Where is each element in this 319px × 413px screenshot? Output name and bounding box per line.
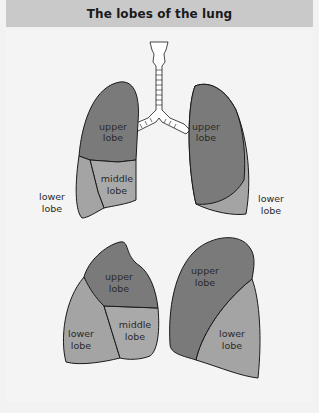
label-front-right-middle-1: middle xyxy=(101,173,134,184)
label-front-right-middle-2: lobe xyxy=(107,185,127,196)
label-side-right-lower-2: lobe xyxy=(71,340,91,351)
label-side-right-middle-2: lobe xyxy=(125,331,145,342)
label-front-left-upper-1: upper xyxy=(192,121,220,132)
side-left-lung xyxy=(170,238,260,378)
label-side-right-upper-2: lobe xyxy=(109,283,129,294)
label-front-right-upper-1: upper xyxy=(99,121,127,132)
lung-lobes-diagram: The lobes of the lung xyxy=(0,0,319,413)
front-left-upper-lobe xyxy=(189,84,245,204)
label-front-left-upper-2: lobe xyxy=(196,132,216,143)
label-side-left-upper-2: lobe xyxy=(195,277,215,288)
front-left-lung xyxy=(189,84,249,214)
label-side-right-upper-1: upper xyxy=(105,271,133,282)
label-side-left-lower-2: lobe xyxy=(222,340,242,351)
label-front-right-upper-2: lobe xyxy=(103,132,123,143)
label-side-left-lower-1: lower xyxy=(219,328,245,339)
lung-illustration: upper lobe middle lobe lower lobe upper … xyxy=(0,0,319,413)
label-side-right-middle-1: middle xyxy=(119,319,152,330)
label-side-left-upper-1: upper xyxy=(191,265,219,276)
label-side-right-lower-1: lower xyxy=(68,328,94,339)
label-front-right-lower-1: lower xyxy=(39,191,65,202)
label-front-right-lower-2: lobe xyxy=(42,203,62,214)
label-front-left-lower-1: lower xyxy=(258,193,284,204)
front-right-lung xyxy=(76,82,138,218)
label-front-left-lower-2: lobe xyxy=(261,205,281,216)
